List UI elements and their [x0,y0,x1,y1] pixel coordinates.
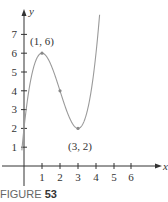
caption-prefix: FIGURE [0,188,45,200]
max-point-label: (1, 6) [30,35,54,48]
x-axis-label: x [162,160,168,172]
x-tick-label: 6 [128,171,134,183]
y-axis-label: y [28,5,34,17]
x-tick-label: 1 [39,171,45,183]
caption-number: 53 [45,188,57,200]
chart-figure: x y 1 2 3 4 5 6 1 2 3 4 5 6 7 (1, 6) [0,0,168,202]
figure-caption: FIGURE 53 [0,188,57,200]
y-tick-label: 5 [12,66,18,78]
y-tick-label: 4 [12,85,18,97]
y-axis-arrow-icon [22,9,27,16]
min-point-marker [76,127,79,130]
x-tick-label: 4 [93,171,99,183]
x-tick-label: 5 [111,171,117,183]
x-axis-arrow-icon [155,164,162,169]
x-tick-label: 2 [57,171,63,183]
min-point-label: (3, 2) [68,140,92,153]
y-tick-label: 6 [12,47,18,59]
y-tick-label: 7 [12,28,18,40]
max-point-marker [40,52,43,55]
y-tick-label: 3 [12,103,18,115]
x-tick-label: 3 [75,171,81,183]
y-ticks: 1 2 3 4 5 6 7 [12,28,28,153]
inflection-point-marker [58,89,61,92]
y-tick-label: 1 [12,141,18,153]
y-tick-label: 2 [12,122,18,134]
